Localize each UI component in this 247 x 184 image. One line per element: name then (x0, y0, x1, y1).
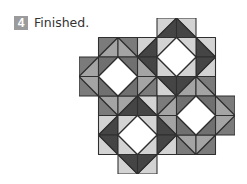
step-header: 4 Finished. (14, 15, 89, 30)
finished-quilt-illustration (79, 18, 235, 174)
step-number-badge: 4 (14, 16, 28, 30)
